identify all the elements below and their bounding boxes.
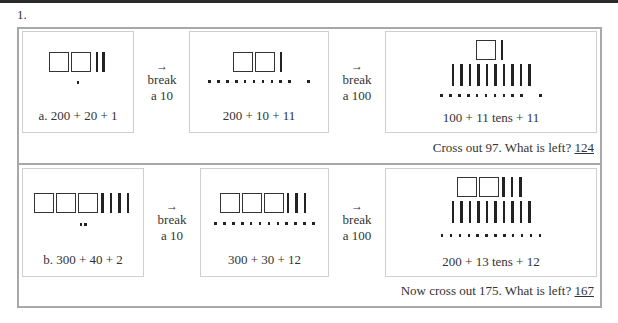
one-unit bbox=[235, 80, 238, 83]
one-unit bbox=[262, 80, 265, 83]
extra-ten-rods bbox=[386, 201, 596, 223]
arrow-right-icon: → bbox=[332, 200, 382, 212]
ten-rod bbox=[486, 201, 489, 223]
base-ten-blocks bbox=[386, 177, 596, 197]
top-rule bbox=[0, 0, 618, 3]
arrow-right-icon: → bbox=[150, 200, 194, 212]
one-unit bbox=[259, 222, 262, 225]
ten-rod bbox=[520, 201, 523, 223]
arrow-label: break bbox=[140, 72, 184, 88]
hundred-block bbox=[49, 52, 69, 72]
ten-rod bbox=[519, 177, 522, 197]
panel-caption: 200 + 13 tens + 12 bbox=[386, 254, 596, 270]
one-unit bbox=[485, 234, 488, 237]
one-unit bbox=[208, 80, 211, 83]
one-unit bbox=[288, 80, 291, 83]
one-unit bbox=[467, 94, 470, 97]
question-text: Now cross out 175. What is left? bbox=[401, 283, 572, 298]
one-unit bbox=[214, 222, 217, 225]
one-unit bbox=[485, 94, 488, 97]
ten-rod bbox=[280, 52, 283, 72]
arrow-right-icon: → bbox=[140, 60, 184, 72]
ten-rod bbox=[511, 177, 514, 197]
step-arrow: → break a 10 bbox=[150, 200, 194, 244]
question-a: Cross out 97. What is left? 124 bbox=[433, 140, 594, 156]
one-unit bbox=[458, 94, 461, 97]
one-unit bbox=[77, 81, 80, 84]
ten-rod bbox=[503, 201, 506, 223]
base-ten-blocks bbox=[201, 193, 328, 213]
one-unit bbox=[84, 223, 87, 226]
arrow-label: a 10 bbox=[150, 228, 194, 244]
ten-rod bbox=[520, 64, 523, 86]
panel-caption: 100 + 11 tens + 11 bbox=[386, 110, 596, 126]
ten-rod bbox=[477, 64, 480, 86]
ten-rod bbox=[127, 193, 130, 213]
one-unit bbox=[285, 222, 288, 225]
one-unit bbox=[539, 234, 542, 237]
panel-caption: 200 + 10 + 11 bbox=[190, 108, 328, 124]
one-unit bbox=[271, 80, 274, 83]
hundred-block bbox=[220, 193, 240, 213]
one-unit bbox=[476, 234, 479, 237]
hundred-block bbox=[71, 52, 91, 72]
panel-a-step1: 200 + 10 + 11 bbox=[189, 31, 329, 133]
one-unit bbox=[312, 222, 315, 225]
one-unit bbox=[80, 223, 83, 226]
hundred-block bbox=[264, 193, 284, 213]
hundred-block bbox=[242, 193, 262, 213]
arrow-label: break bbox=[332, 72, 382, 88]
ten-rod bbox=[96, 52, 99, 72]
one-unit bbox=[441, 234, 444, 237]
one-unit bbox=[277, 222, 280, 225]
ten-rod bbox=[511, 64, 514, 86]
ten-rod bbox=[460, 201, 463, 223]
ten-rod bbox=[501, 40, 504, 60]
one-unit bbox=[307, 80, 310, 83]
arrow-label: break bbox=[332, 212, 382, 228]
one-unit bbox=[520, 94, 523, 97]
answer-value: 124 bbox=[575, 140, 595, 155]
one-unit bbox=[244, 80, 247, 83]
panel-b-step1: 300 + 30 + 12 bbox=[200, 168, 329, 277]
ten-rod bbox=[469, 64, 472, 86]
hundred-block bbox=[233, 52, 253, 72]
one-unit bbox=[459, 234, 462, 237]
question-number: 1. bbox=[17, 7, 27, 23]
ones-units bbox=[23, 81, 133, 84]
one-unit bbox=[512, 234, 515, 237]
ten-rod bbox=[287, 193, 290, 213]
one-unit bbox=[494, 234, 497, 237]
ten-rod bbox=[110, 193, 113, 213]
panel-caption: b. 300 + 40 + 2 bbox=[23, 252, 143, 268]
ones-units bbox=[201, 222, 328, 225]
ten-rod bbox=[101, 193, 104, 213]
ten-rod bbox=[511, 201, 514, 223]
one-unit bbox=[503, 94, 506, 97]
panel-caption: a. 200 + 20 + 1 bbox=[23, 108, 133, 124]
extra-ten-rods bbox=[386, 64, 596, 86]
ones-units bbox=[23, 223, 143, 226]
one-unit bbox=[530, 234, 533, 237]
base-ten-blocks bbox=[190, 52, 328, 72]
ten-rod bbox=[494, 201, 497, 223]
ones-units bbox=[386, 94, 596, 97]
hundred-block bbox=[479, 177, 499, 197]
ten-rod bbox=[118, 193, 121, 213]
one-unit bbox=[250, 222, 253, 225]
hundred-block bbox=[78, 193, 98, 213]
one-unit bbox=[217, 80, 220, 83]
one-unit bbox=[539, 94, 542, 97]
panel-b-start: b. 300 + 40 + 2 bbox=[22, 168, 144, 277]
arrow-label: break bbox=[150, 212, 194, 228]
one-unit bbox=[294, 222, 297, 225]
one-unit bbox=[303, 222, 306, 225]
row-divider bbox=[17, 163, 602, 165]
ten-rod bbox=[477, 201, 480, 223]
ten-rod bbox=[102, 52, 105, 72]
one-unit bbox=[476, 94, 479, 97]
panel-caption: 300 + 30 + 12 bbox=[201, 252, 328, 268]
one-unit bbox=[503, 234, 506, 237]
ten-rod bbox=[469, 201, 472, 223]
ten-rod bbox=[304, 193, 307, 213]
